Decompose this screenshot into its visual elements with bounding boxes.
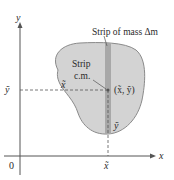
x-tilde-axis-label: x̃ bbox=[103, 160, 109, 171]
com-diagram: y x 0 Strip of mass Δm Strip c.m. (x̃, ỹ… bbox=[0, 0, 174, 180]
y-tilde-axis-label: ỹ bbox=[4, 84, 10, 95]
y-tilde-inside: ỹ bbox=[113, 120, 119, 131]
y-axis-label: y bbox=[15, 12, 21, 23]
origin-label: 0 bbox=[9, 160, 14, 171]
x-tilde-inside: x̃ bbox=[60, 79, 66, 90]
x-axis-arrow-icon bbox=[150, 154, 156, 159]
strip-cm-line1: Strip bbox=[72, 59, 91, 69]
cm-point bbox=[107, 89, 110, 92]
strip-cm-line2: c.m. bbox=[74, 71, 90, 81]
cm-point-label: (x̃, ỹ) bbox=[114, 85, 135, 96]
strip-title: Strip of mass Δm bbox=[92, 27, 159, 37]
x-axis-label: x bbox=[158, 150, 164, 161]
